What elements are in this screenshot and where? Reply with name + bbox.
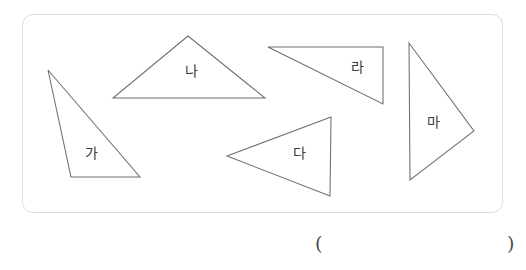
answer-blank-row: ( ) [0, 228, 526, 264]
triangle-label-na: 나 [185, 63, 198, 79]
triangle-group-ga: 가 [48, 70, 140, 177]
triangle-group-da: 다 [227, 117, 331, 196]
triangle-ra [268, 47, 383, 104]
triangle-label-ma: 마 [427, 114, 440, 130]
triangle-group-na: 나 [113, 36, 265, 98]
triangle-label-ra: 라 [351, 59, 364, 75]
triangle-group-ma: 마 [409, 43, 474, 180]
triangle-label-da: 다 [293, 145, 306, 161]
triangle-da [227, 117, 331, 196]
answer-close-paren: ) [507, 234, 514, 253]
worksheet-page: 가 나 다 라 마 ( ) [0, 0, 526, 270]
answer-open-paren: ( [315, 234, 322, 253]
triangle-ma [409, 43, 474, 180]
triangle-label-ga: 가 [85, 145, 98, 161]
triangle-group-ra: 라 [268, 47, 383, 104]
